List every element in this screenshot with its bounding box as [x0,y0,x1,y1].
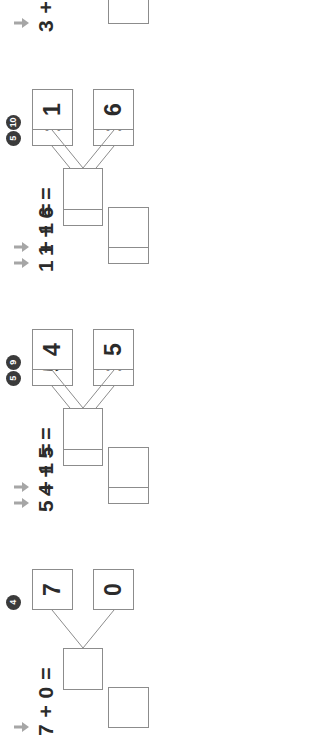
equation-text: 1 + 6 = [34,196,58,256]
equation-text: 3 + 3 = [34,0,58,32]
problem-6: 6333 + 3 = [8,0,158,24]
down-arrow-icon [14,720,30,734]
equation-text: 7 + 0 = [34,676,58,736]
problem-4: 4707 + 0 = [8,532,158,728]
addend-bottom-box: 5 [93,329,134,370]
down-arrow-icon [14,496,30,510]
down-arrow-icon [14,16,30,30]
answer-box[interactable] [108,687,149,728]
equation-text: 4 + 5 = [34,436,58,496]
problem-number-badge: 4 [6,595,21,610]
down-arrow-icon [14,240,30,254]
problem-10: 10161 + 6 = [8,52,158,248]
problem-number-badge: 10 [6,115,21,130]
sum-box[interactable] [63,648,103,690]
addend-bottom-box: 0 [93,569,134,610]
answer-box[interactable] [108,207,149,248]
addend-top-box: 7 [32,569,73,610]
sum-box[interactable] [63,168,103,210]
addend-top-box: 4 [32,329,73,370]
down-arrow-icon [14,256,30,270]
sum-box[interactable] [63,408,103,450]
addend-bottom-box: 6 [93,89,134,130]
problem-number-badge: 9 [6,355,21,370]
addend-top-box: 1 [32,89,73,130]
problem-9: 9454 + 5 = [8,292,158,488]
down-arrow-icon [14,480,30,494]
answer-box[interactable] [108,447,149,488]
answer-box[interactable] [108,0,149,24]
